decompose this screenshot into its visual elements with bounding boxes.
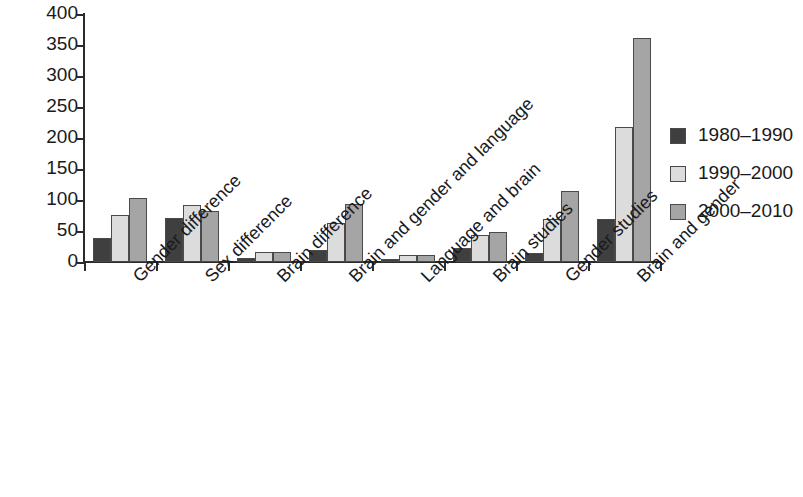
x-axis-label: Brain and gender and language [345,272,359,286]
legend-label: 2000–2010 [698,200,793,222]
bar [201,211,219,262]
x-axis-tick-mark [84,262,86,271]
x-axis-tick-mark [444,262,446,271]
x-axis-label: Brain studies [489,272,503,286]
bar [597,219,615,262]
bar [111,215,129,262]
bar-group [381,14,435,262]
bar [633,38,651,262]
y-axis-tick-mark [77,76,84,78]
y-axis-tick-mark [77,14,84,16]
y-axis-tick-mark [77,169,84,171]
bar-group [165,14,219,262]
x-axis-tick-mark [660,262,662,271]
y-axis-tick-label: 300 [46,65,78,84]
y-axis-tick-label: 50 [57,220,78,239]
bar [615,127,633,262]
legend-swatch-icon [670,204,686,220]
bar [255,252,273,262]
y-axis-tick-mark [77,231,84,233]
x-axis-tick-mark [516,262,518,271]
bar-group [309,14,363,262]
bar [165,218,183,262]
x-axis-label: Brain difference [273,272,287,286]
y-axis-tick-label: 150 [46,158,78,177]
y-axis-tick-label: 200 [46,127,78,146]
legend-label: 1980–1990 [698,124,793,146]
bar [543,219,561,262]
x-axis-label: Brain and gender [633,272,647,286]
y-axis-tick-mark [77,200,84,202]
bar [93,238,111,262]
x-axis-label: Gender difference [129,272,143,286]
legend-swatch-icon [670,128,686,144]
x-axis-label: Gender studies [561,272,575,286]
y-axis-tick-label: 350 [46,34,78,53]
bar [399,255,417,262]
bar [471,235,489,262]
bar [327,223,345,262]
bar-chart: 050100150200250300350400 Gender differen… [0,0,803,497]
y-axis-tick-mark [77,107,84,109]
y-axis-tick-label: 0 [67,251,78,270]
y-axis-tick-label: 250 [46,96,78,115]
x-axis-tick-mark [588,262,590,271]
bar [453,248,471,262]
bar-group [597,14,651,262]
bar-group [237,14,291,262]
bar-group [525,14,579,262]
plot-area: 050100150200250300350400 [84,14,660,262]
x-axis-tick-mark [228,262,230,271]
bar [417,255,435,262]
bar-group [453,14,507,262]
bar [183,205,201,262]
y-axis-tick-mark [77,138,84,140]
legend-swatch-icon [670,166,686,182]
y-axis-tick-label: 400 [46,3,78,22]
bar [489,232,507,262]
bar [381,259,399,262]
bar [345,204,363,262]
bar [237,258,255,262]
y-axis-tick-mark [77,262,84,264]
bar [129,198,147,262]
bar [561,191,579,262]
x-axis-tick-mark [372,262,374,271]
x-axis-label: Language and brain [417,272,431,286]
bar-group [93,14,147,262]
legend-label: 1990–2000 [698,162,793,184]
bar [525,253,543,262]
x-axis-tick-mark [156,262,158,271]
y-axis-tick-label: 100 [46,189,78,208]
bar [273,252,291,262]
y-axis-tick-mark [77,45,84,47]
x-axis-tick-mark [300,262,302,271]
x-axis-label: Sex difference [201,272,215,286]
bar [309,250,327,262]
